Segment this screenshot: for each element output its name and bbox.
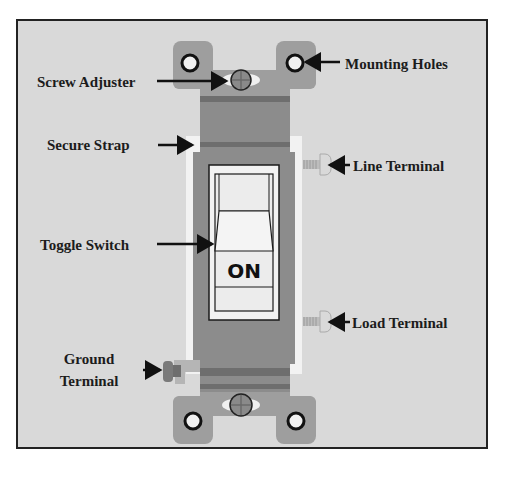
line-terminal-screw-icon	[303, 154, 331, 175]
label-secure-strap: Secure Strap	[47, 136, 130, 154]
toggle-switch[interactable]	[209, 165, 279, 320]
label-toggle-switch: Toggle Switch	[40, 236, 129, 254]
ground-terminal-screw-icon	[163, 360, 200, 384]
label-ground-terminal-line1: Ground	[54, 350, 124, 368]
on-indicator-text: ON	[227, 259, 261, 283]
label-line-terminal: Line Terminal	[353, 157, 444, 175]
label-screw-adjuster: Screw Adjuster	[37, 73, 135, 91]
load-terminal-screw-icon	[303, 311, 331, 332]
label-load-terminal: Load Terminal	[352, 314, 447, 332]
label-mounting-holes: Mounting Holes	[345, 55, 448, 73]
label-ground-terminal-line2: Terminal	[50, 372, 128, 390]
